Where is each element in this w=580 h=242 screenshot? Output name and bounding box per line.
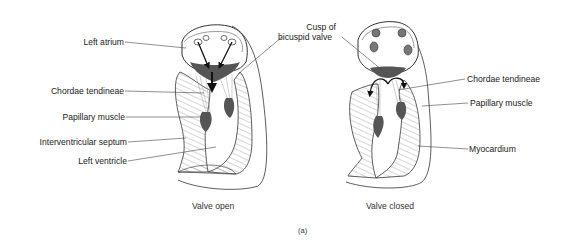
label-papillary-muscle-closed: Papillary muscle [470, 98, 533, 108]
label-cusp-line2: bicuspid valve [278, 32, 332, 42]
heart-valve-closed [342, 22, 468, 188]
label-myocardium: Myocardium [469, 144, 516, 154]
caption-valve-closed: Valve closed [366, 201, 414, 211]
label-cusp-line1: Cusp of [297, 22, 345, 32]
label-chordae-tendineae-open: Chordae tendineae [20, 86, 124, 96]
heart-valve-open [125, 25, 282, 190]
panel-label: (a) [298, 226, 307, 235]
label-interventricular-septum: Interventricular septum [0, 137, 127, 147]
caption-valve-open: Valve open [192, 201, 234, 211]
label-left-ventricle: Left ventricle [20, 156, 127, 166]
label-papillary-muscle-open: Papillary muscle [20, 112, 125, 122]
label-chordae-tendineae-closed: Chordae tendineae [467, 74, 540, 84]
label-left-atrium: Left atrium [40, 37, 124, 47]
